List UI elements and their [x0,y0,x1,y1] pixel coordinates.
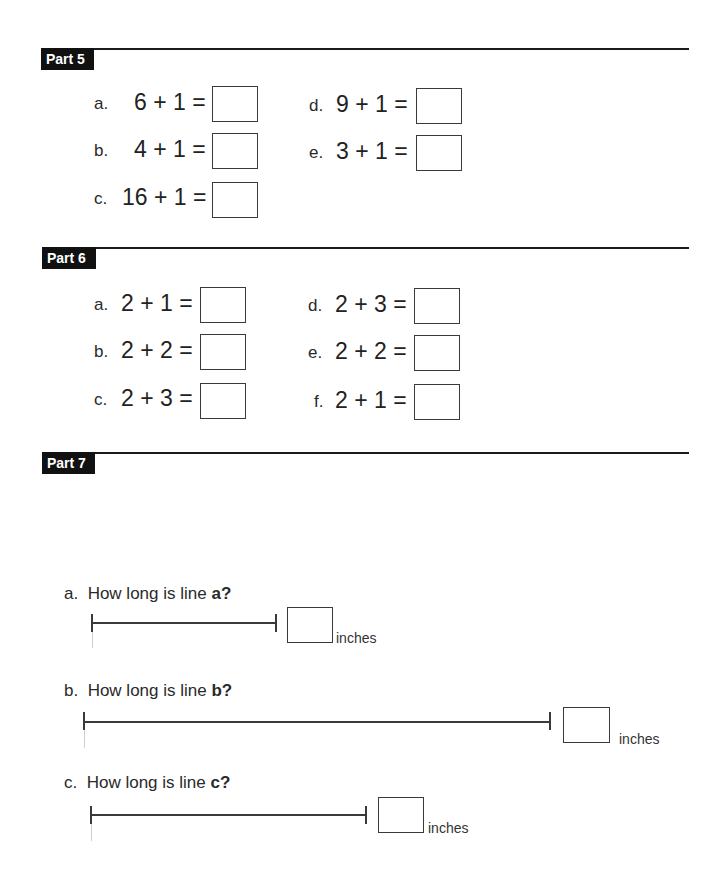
item-letter: b. [94,141,108,161]
equation: 6 + 1 = [134,89,206,115]
unit-label: inches [336,630,376,646]
answer-box-5d[interactable] [416,88,462,124]
equation: 2 + 1 = [121,290,193,316]
equation: 3 + 1 = [336,138,408,164]
equation: 2 + 1 = [335,387,407,413]
part-5-label: Part 5 [41,48,94,70]
question-b: b. How long is line b? [64,681,232,701]
question-target: c? [210,773,230,792]
item-letter: c. [94,390,107,410]
question-target: a? [211,584,231,603]
line-c-segment [91,814,366,816]
equation: 2 + 2 = [335,338,407,364]
equation: 2 + 3 = [121,385,193,411]
line-a-segment [92,622,276,624]
item-letter: e. [308,343,322,363]
item-letter: b. [94,342,108,362]
answer-box-5b[interactable] [212,133,258,169]
question-letter: c. [64,773,77,792]
equation: 9 + 1 = [336,91,408,117]
item-letter: a. [94,295,108,315]
question-letter: b. [64,681,78,700]
answer-box-6a[interactable] [200,287,246,323]
part-5-divider [41,48,689,50]
line-a-end-tick [275,614,277,632]
item-letter: e. [309,143,323,163]
question-target: b? [211,681,232,700]
answer-box-7a[interactable] [287,607,333,643]
equation: 2 + 2 = [121,337,193,363]
answer-box-5a[interactable] [212,86,258,122]
question-letter: a. [64,584,78,603]
part-6-divider [42,247,689,249]
question-a: a. How long is line a? [64,584,231,604]
answer-box-6b[interactable] [200,334,246,370]
item-letter: f. [314,392,323,412]
item-letter: d. [309,96,323,116]
unit-label: inches [619,731,659,747]
equation: 16 + 1 = [122,184,206,210]
item-letter: c. [94,189,107,209]
question-text: How long is line [87,773,211,792]
part-7-divider [42,452,689,454]
answer-box-5e[interactable] [416,135,462,171]
part-6-label: Part 6 [42,247,96,269]
answer-box-7b[interactable] [563,707,610,743]
answer-box-6c[interactable] [200,383,246,419]
part-7-label: Part 7 [42,452,95,474]
question-c: c. How long is line c? [64,773,230,793]
line-b-end-tick [549,712,551,730]
line-c-end-tick [365,806,367,824]
answer-box-5c[interactable] [212,182,258,218]
equation: 4 + 1 = [134,136,206,162]
answer-box-7c[interactable] [378,797,424,833]
equation: 2 + 3 = [335,291,407,317]
unit-label: inches [428,820,468,836]
question-text: How long is line [88,584,212,603]
answer-box-6e[interactable] [414,335,460,371]
answer-box-6d[interactable] [414,288,460,324]
item-letter: d. [308,296,322,316]
answer-box-6f[interactable] [414,384,460,420]
question-text: How long is line [88,681,212,700]
line-b-segment [84,721,550,723]
item-letter: a. [94,94,108,114]
